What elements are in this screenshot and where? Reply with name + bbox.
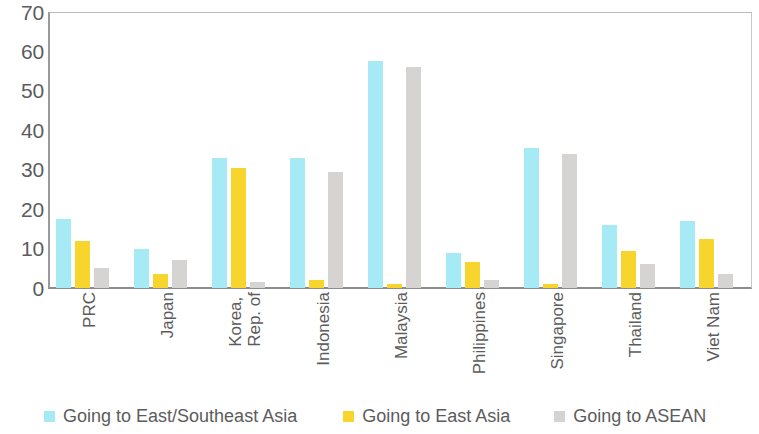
x-axis-tick-label-text: Philippines: [470, 292, 489, 374]
x-axis-tick-label-text: Singapore: [548, 292, 567, 370]
y-tick-50: 50: [0, 80, 44, 101]
bar: [309, 280, 324, 288]
bar: [465, 262, 480, 288]
x-axis-tick-label: PRC: [50, 292, 128, 392]
bar-group: [518, 12, 596, 288]
y-tick-60: 60: [0, 41, 44, 62]
legend-swatch-icon: [554, 411, 565, 422]
bar-group: [674, 12, 752, 288]
bar: [250, 282, 265, 288]
bar: [446, 253, 461, 288]
bar-group: [596, 12, 674, 288]
legend-item-asean: Going to ASEAN: [554, 405, 706, 427]
x-axis-tick-label-text: Thailand: [626, 292, 645, 357]
y-tick-10: 10: [0, 238, 44, 259]
bar-group: [440, 12, 518, 288]
chart-legend: Going to East/Southeast Asia Going to Ea…: [0, 398, 759, 434]
bar: [680, 221, 695, 288]
bar: [75, 241, 90, 288]
legend-item-east-southeast-asia: Going to East/Southeast Asia: [44, 405, 297, 427]
x-axis-tick-label-text: Korea,Rep. of: [226, 292, 264, 347]
bar: [212, 158, 227, 288]
x-axis-tick-label: Singapore: [518, 292, 596, 392]
y-axis: 70 60 50 40 30 20 10 0: [0, 0, 44, 300]
bar: [640, 264, 655, 288]
bar: [406, 67, 421, 288]
x-axis-tick-label: Indonesia: [284, 292, 362, 392]
legend-label: Going to East/Southeast Asia: [63, 405, 297, 427]
y-tick-30: 30: [0, 159, 44, 180]
x-axis-tick-label-text: PRC: [80, 292, 99, 328]
y-tick-40: 40: [0, 120, 44, 141]
bar-chart: 70 60 50 40 30 20 10 0 PRCJapanKorea,Rep…: [0, 0, 759, 434]
bar: [328, 172, 343, 288]
y-tick-0: 0: [0, 278, 44, 299]
bar: [290, 158, 305, 288]
bar: [172, 260, 187, 288]
x-axis-tick-label: Malaysia: [362, 292, 440, 392]
x-axis-tick-label: Viet Nam: [674, 292, 752, 392]
bar: [718, 274, 733, 288]
x-axis-tick-label: Philippines: [440, 292, 518, 392]
bar: [94, 268, 109, 288]
y-tick-20: 20: [0, 199, 44, 220]
bar: [231, 168, 246, 288]
x-axis-tick-label-text: Japan: [158, 292, 177, 338]
x-axis-tick-label: Japan: [128, 292, 206, 392]
x-axis-labels: PRCJapanKorea,Rep. ofIndonesiaMalaysiaPh…: [50, 292, 752, 392]
bar: [134, 249, 149, 288]
bar: [621, 251, 636, 288]
bar: [368, 61, 383, 288]
bar: [699, 239, 714, 288]
x-axis-tick-label-text: Viet Nam: [704, 292, 723, 362]
legend-label: Going to ASEAN: [573, 405, 706, 427]
x-axis-tick-label-text: Malaysia: [392, 292, 411, 359]
bar-group: [50, 12, 128, 288]
legend-item-east-asia: Going to East Asia: [343, 405, 510, 427]
bar-group: [206, 12, 284, 288]
bar: [153, 274, 168, 288]
bar: [484, 280, 499, 288]
x-axis-tick-label: Thailand: [596, 292, 674, 392]
x-axis-tick-label: Korea,Rep. of: [206, 292, 284, 392]
bar: [387, 284, 402, 288]
bar-group: [362, 12, 440, 288]
legend-swatch-icon: [44, 411, 55, 422]
bar: [562, 154, 577, 288]
legend-swatch-icon: [343, 411, 354, 422]
bar: [602, 225, 617, 288]
bar-group: [284, 12, 362, 288]
x-axis-tick-label-text: Indonesia: [314, 292, 333, 366]
bar-group: [128, 12, 206, 288]
bar: [543, 284, 558, 288]
y-tick-70: 70: [0, 2, 44, 23]
bars-layer: [50, 12, 752, 288]
legend-label: Going to East Asia: [362, 405, 510, 427]
bar: [56, 219, 71, 288]
bar: [524, 148, 539, 288]
